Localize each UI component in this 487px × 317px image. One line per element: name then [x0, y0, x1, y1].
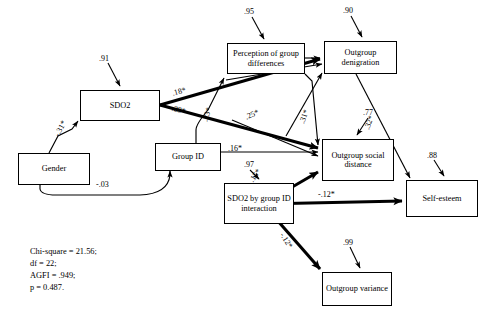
fit-chi-square: Chi-square = 21.56;: [30, 246, 97, 258]
residual-arrow-selfesteem: [434, 160, 444, 176]
path-diagram: Gender SDO2 Group ID Perception of group…: [0, 0, 487, 317]
fit-df: df = 22;: [30, 258, 97, 270]
node-outgroup-variance[interactable]: Outgroup variance: [322, 272, 392, 306]
node-group-id-label: Group ID: [170, 152, 206, 161]
residual-label-self-esteem: .88: [427, 151, 437, 160]
node-gender[interactable]: Gender: [18, 153, 90, 185]
fit-statistics: Chi-square = 21.56; df = 22; AGFI = .949…: [30, 246, 97, 294]
fit-p-value: p = 0.487.: [30, 282, 97, 294]
node-social-distance-label: Outgroup social distance: [323, 151, 393, 170]
node-outgroup-social-distance[interactable]: Outgroup social distance: [322, 139, 394, 181]
residual-label-denigration: .90: [343, 6, 353, 15]
node-group-id[interactable]: Group ID: [155, 143, 221, 171]
residual-label-interaction: .97: [244, 160, 254, 169]
node-sdo2-by-group-id-interaction[interactable]: SDO2 by group ID interaction: [224, 183, 294, 224]
residual-arrow-sdo2: [108, 63, 120, 86]
node-perception-group-differences[interactable]: Perception of group differences: [227, 43, 305, 74]
path-label-groupid-social-distance: .16*: [228, 144, 242, 153]
path-perception-down: [232, 120, 318, 156]
node-interaction-label: SDO2 by group ID interaction: [225, 194, 293, 213]
node-sdo2-label: SDO2: [108, 101, 133, 110]
residual-label-perception: .95: [244, 7, 254, 16]
node-gender-label: Gender: [40, 164, 68, 173]
node-sdo2[interactable]: SDO2: [80, 90, 160, 121]
residual-label-sdo2: .91: [99, 54, 109, 63]
residual-arrow-perception: [252, 17, 264, 39]
path-label-gender-groupid: -.03: [96, 180, 109, 189]
node-self-esteem-label: Self-esteem: [420, 194, 463, 203]
residual-arrow-denigration: [351, 16, 362, 37]
node-self-esteem[interactable]: Self-esteem: [406, 180, 478, 217]
residual-label-variance: .99: [343, 238, 353, 247]
node-outgroup-denigration[interactable]: Outgroup denigration: [324, 41, 397, 74]
node-denigration-label: Outgroup denigration: [325, 48, 396, 67]
residual-arrow-variance: [350, 247, 360, 268]
node-variance-label: Outgroup variance: [324, 284, 390, 293]
path-label-interaction-self-esteem: -.12*: [318, 190, 335, 199]
node-perception-label: Perception of group differences: [228, 49, 304, 68]
fit-agfi: AGFI = .949;: [30, 270, 97, 282]
